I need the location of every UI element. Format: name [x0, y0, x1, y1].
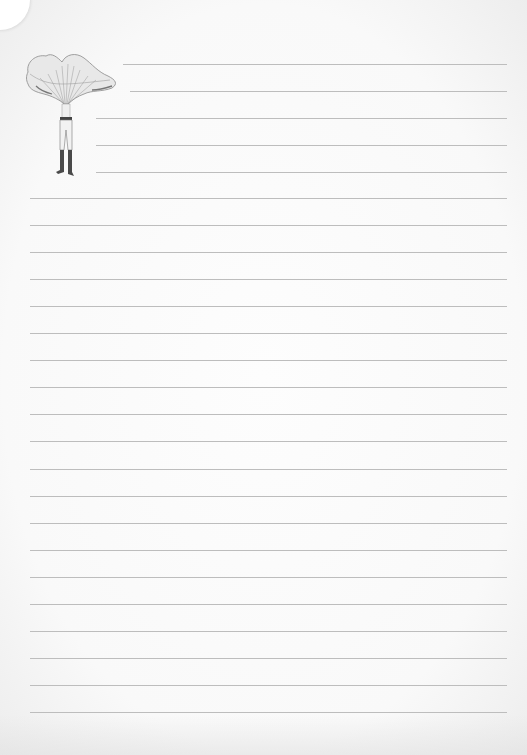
ruled-line — [30, 360, 507, 361]
ruled-line — [30, 441, 507, 442]
ruled-line-short — [96, 145, 507, 146]
ruled-line — [30, 252, 507, 253]
ruled-line — [30, 225, 507, 226]
ruled-line-short — [96, 172, 507, 173]
ruled-line — [30, 333, 507, 334]
ruled-line — [30, 469, 507, 470]
ruled-line — [30, 577, 507, 578]
ruled-line — [30, 631, 507, 632]
ruled-line — [30, 658, 507, 659]
ruled-line — [30, 604, 507, 605]
page-curl-corner — [0, 0, 30, 30]
notepaper — [0, 0, 527, 755]
ruled-line — [30, 306, 507, 307]
ruled-line — [30, 279, 507, 280]
ruled-line — [30, 414, 507, 415]
paper-texture-edge — [0, 715, 527, 755]
ruled-line — [30, 550, 507, 551]
ruled-line — [30, 198, 507, 199]
ruled-line — [30, 523, 507, 524]
ruled-line-short — [123, 64, 507, 65]
ruled-line — [30, 712, 507, 713]
ruled-line-short — [96, 118, 507, 119]
ruled-line — [30, 496, 507, 497]
ruled-line-short — [130, 91, 507, 92]
ruled-line — [30, 387, 507, 388]
ruled-line — [30, 685, 507, 686]
